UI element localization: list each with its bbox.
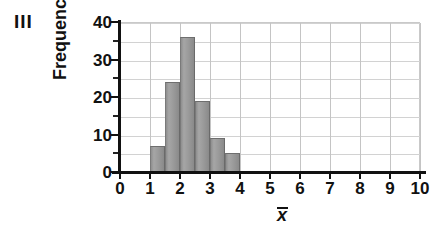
y-axis-minor-tick — [113, 152, 118, 154]
histogram-bar — [225, 153, 240, 172]
x-axis-tick — [119, 172, 121, 179]
x-axis-tick — [419, 172, 421, 179]
x-bar-overline — [277, 207, 288, 209]
y-axis-minor-tick — [113, 40, 118, 42]
x-axis-tick-label: 5 — [256, 180, 284, 197]
histogram-bar — [180, 37, 195, 172]
y-axis-tick-label: 20 — [78, 89, 112, 106]
x-axis-tick-label: 2 — [166, 180, 194, 197]
x-axis-tick — [179, 172, 181, 179]
x-axis-tick — [389, 172, 391, 179]
x-axis-tick-label: 9 — [376, 180, 404, 197]
x-axis-tick-label: 0 — [106, 180, 134, 197]
y-axis-tick-label: 30 — [78, 52, 112, 69]
gridline-vertical — [390, 23, 391, 173]
gridline-vertical — [300, 23, 301, 173]
gridline-vertical — [420, 23, 421, 173]
gridline-vertical — [240, 23, 241, 173]
y-axis-minor-tick — [113, 115, 118, 117]
y-axis-tick — [111, 59, 118, 61]
y-axis-minor-tick — [113, 77, 118, 79]
histogram-bar — [165, 82, 180, 172]
y-axis-tick — [111, 134, 118, 136]
x-axis-tick — [329, 172, 331, 179]
histogram-chart: 010203040 Frequency x 012345678910 — [0, 0, 444, 239]
y-axis-title-wrap: Frequency — [56, 28, 78, 168]
y-axis-tick-labels: 010203040 — [78, 0, 112, 239]
x-axis-tick — [299, 172, 301, 179]
x-axis-tick-label: 10 — [406, 180, 434, 197]
x-axis-tick-label: 1 — [136, 180, 164, 197]
y-axis-tick-label: 40 — [78, 14, 112, 31]
histogram-bar — [195, 101, 210, 172]
x-axis-tick — [359, 172, 361, 179]
x-axis-tick — [269, 172, 271, 179]
y-axis-tick — [111, 96, 118, 98]
x-axis-tick-label: 6 — [286, 180, 314, 197]
plot-area — [120, 22, 420, 172]
histogram-bar — [210, 138, 225, 172]
y-axis-tick-label: 0 — [78, 164, 112, 181]
y-axis-line — [118, 20, 121, 174]
gridline-vertical — [360, 23, 361, 173]
y-axis-tick — [111, 21, 118, 23]
y-axis-title: Frequency — [50, 0, 71, 80]
x-axis-tick — [209, 172, 211, 179]
x-axis-tick-label: 4 — [226, 180, 254, 197]
x-axis-tick-label: 7 — [316, 180, 344, 197]
x-axis-tick-label: 8 — [346, 180, 374, 197]
y-axis-tick — [111, 171, 118, 173]
x-axis-title-text: x — [157, 205, 287, 226]
gridline-vertical — [270, 23, 271, 173]
histogram-bar — [150, 146, 165, 172]
x-axis-tick-label: 3 — [196, 180, 224, 197]
x-axis-tick — [149, 172, 151, 179]
y-axis-tick-label: 10 — [78, 127, 112, 144]
x-axis-title: x — [0, 205, 444, 226]
x-axis-tick — [239, 172, 241, 179]
gridline-vertical — [330, 23, 331, 173]
